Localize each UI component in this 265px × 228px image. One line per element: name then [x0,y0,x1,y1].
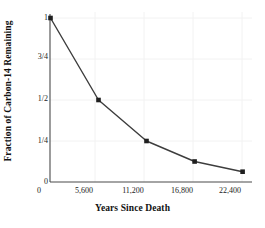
data-point-markers [48,16,245,174]
decay-curve [51,18,243,172]
data-point-marker [96,98,101,103]
data-point-marker [192,159,197,164]
y-axis-title: Fraction of Carbon-14 Remaining [0,0,16,182]
y-tick-label-1: 1 [8,13,48,22]
data-point-marker [48,16,53,21]
data-point-marker [240,169,245,174]
x-axis-title: Years Since Death [0,203,265,213]
x-tick-label-22400: 22,400 [208,186,252,195]
y-tick-label-one-half: 1/2 [8,94,48,103]
axis-lines [50,14,252,182]
carbon-14-decay-chart: Fraction of Carbon-14 Remaining 1 3/4 1/… [0,0,265,228]
x-tick-label-16800: 16,800 [160,186,204,195]
x-tick-label-5600: 5,600 [62,186,106,195]
x-tick-label-0: 0 [17,186,61,195]
gridlines [50,12,252,182]
x-tick-label-11200: 11,200 [111,186,155,195]
data-point-marker [144,139,149,144]
y-tick-label-one-quarter: 1/4 [8,136,48,145]
y-tick-label-three-quarters: 3/4 [8,52,48,61]
y-tick-label-zero: 0 [8,177,48,186]
